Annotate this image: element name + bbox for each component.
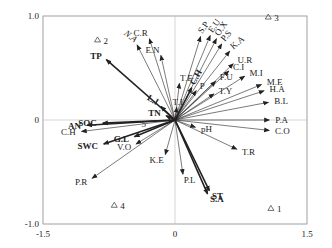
- sample-label: 5: [141, 119, 146, 129]
- variable-label: C.H: [61, 127, 76, 137]
- variable-label: M.I: [250, 68, 263, 78]
- x-tick-label: 1.5: [301, 229, 313, 239]
- y-tick-label: -1.0: [25, 219, 40, 229]
- y-tick-label: 1.0: [28, 11, 40, 21]
- variable-label: TP: [90, 51, 102, 61]
- variable-label: H.A: [270, 84, 286, 94]
- variable-arrows: C.RN.AE.NTPS.PE.UO.XP.SK.AU.RC.IM.IF.UM.…: [61, 17, 290, 205]
- variable-label: P.L: [184, 175, 196, 185]
- variable-label: P.A: [275, 115, 288, 125]
- sample-label: 1: [277, 204, 282, 214]
- sample-label: 2: [104, 36, 109, 46]
- variable-label: S.A: [210, 194, 224, 204]
- variable-label: C.O: [275, 126, 290, 136]
- variable-label: C.I: [233, 62, 244, 72]
- variable-label: F.U: [220, 72, 234, 82]
- variable-label: E.N: [145, 45, 160, 55]
- variable-label: TN: [148, 108, 161, 118]
- sample-triangle-icon: [265, 14, 271, 19]
- variable-label: T.I: [173, 97, 183, 107]
- variable-label: B.L: [274, 96, 288, 106]
- x-tick-label: 0: [173, 229, 178, 239]
- variable-label: T.R: [242, 147, 255, 157]
- variable-label: K.E: [149, 155, 164, 165]
- variable-label: T.Y: [219, 86, 233, 96]
- x-tick-label: -1.5: [36, 229, 51, 239]
- sample-triangle-icon: [268, 205, 274, 210]
- variable-label: P: [200, 81, 205, 91]
- sample-triangle-icon: [95, 37, 101, 42]
- variable-label: pH: [201, 124, 213, 134]
- sample-label: 3: [274, 13, 279, 23]
- variable-label: SOC: [78, 118, 97, 128]
- variable-label: V.O: [117, 142, 132, 152]
- sample-label: 4: [120, 201, 125, 211]
- variable-label: P.R: [75, 177, 87, 187]
- sample-triangle-icon: [111, 202, 117, 207]
- variable-label: SWC: [78, 141, 99, 151]
- y-tick-label: 0: [35, 115, 40, 125]
- rda-biplot: -1.501.51.00-1.0 C.RN.AE.NTPS.PE.UO.XP.S…: [0, 0, 332, 248]
